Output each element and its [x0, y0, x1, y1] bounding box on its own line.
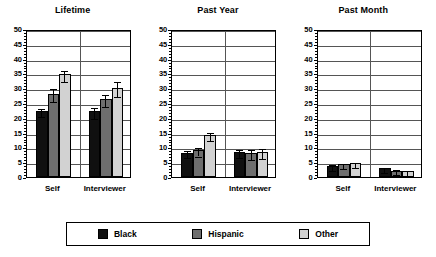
error-bar-cap-lower — [102, 107, 109, 108]
y-minor-tick — [315, 137, 317, 138]
y-minor-tick — [169, 80, 171, 81]
y-minor-tick — [169, 71, 171, 72]
error-bar-cap-lower — [329, 171, 336, 172]
legend-label: Hispanic — [208, 229, 243, 239]
error-bar-cap-lower — [195, 157, 202, 158]
y-tick-mark — [23, 163, 26, 164]
y-minor-tick — [169, 33, 171, 34]
y-minor-tick — [169, 95, 171, 96]
y-tick-mark — [168, 74, 171, 75]
error-bar-cap-upper — [236, 150, 243, 151]
panel-title: Past Month — [291, 5, 436, 15]
y-tick-label: 40 — [291, 56, 313, 64]
y-minor-tick — [169, 39, 171, 40]
plot-area — [171, 30, 276, 178]
y-tick-label: 5 — [0, 159, 22, 167]
y-minor-tick — [169, 128, 171, 129]
y-tick-mark — [23, 30, 26, 31]
error-bar-cap-lower — [38, 117, 45, 118]
error-bar — [198, 148, 199, 156]
y-minor-tick — [24, 166, 26, 167]
x-axis-label-interviewer: Interviewer — [84, 184, 126, 193]
y-minor-tick — [315, 166, 317, 167]
error-bar-cap-upper — [61, 71, 68, 72]
error-bar-cap-upper — [381, 168, 388, 169]
y-tick-label: 35 — [0, 71, 22, 79]
y-minor-tick — [169, 160, 171, 161]
y-tick-mark — [314, 60, 317, 61]
y-minor-tick — [24, 33, 26, 34]
y-tick-mark — [168, 134, 171, 135]
panel-title: Lifetime — [0, 5, 145, 15]
error-bar-cap-lower — [248, 160, 255, 161]
error-bar-cap-upper — [38, 109, 45, 110]
y-minor-tick — [169, 172, 171, 173]
y-minor-tick — [315, 83, 317, 84]
error-bar — [53, 89, 54, 101]
y-minor-tick — [315, 57, 317, 58]
y-minor-tick — [169, 63, 171, 64]
y-minor-tick — [169, 66, 171, 67]
legend-swatch-black — [98, 229, 108, 239]
y-minor-tick — [315, 63, 317, 64]
y-minor-tick — [169, 145, 171, 146]
y-tick-mark — [314, 163, 317, 164]
y-minor-tick — [315, 51, 317, 52]
y-tick-mark — [314, 45, 317, 46]
y-tick-label: 15 — [0, 130, 22, 138]
y-minor-tick — [24, 48, 26, 49]
y-minor-tick — [169, 137, 171, 138]
error-bar-cap-lower — [91, 119, 98, 120]
y-tick-mark — [314, 134, 317, 135]
y-minor-tick — [24, 110, 26, 111]
y-minor-tick — [315, 169, 317, 170]
y-minor-tick — [315, 160, 317, 161]
y-minor-tick — [24, 125, 26, 126]
y-tick-label: 20 — [0, 115, 22, 123]
error-bar — [262, 149, 263, 158]
y-minor-tick — [24, 57, 26, 58]
y-minor-tick — [24, 116, 26, 117]
y-tick-mark — [168, 89, 171, 90]
y-minor-tick — [315, 86, 317, 87]
bar-hispanic-self — [48, 94, 60, 177]
y-tick-mark — [168, 30, 171, 31]
y-minor-tick — [24, 83, 26, 84]
y-tick-mark — [23, 134, 26, 135]
bar-hispanic-interviewer — [100, 99, 112, 177]
y-minor-tick — [169, 116, 171, 117]
error-bar-cap-lower — [381, 173, 388, 174]
y-tick-label: 10 — [145, 145, 167, 153]
y-minor-tick — [169, 142, 171, 143]
y-tick-label: 20 — [291, 115, 313, 123]
y-minor-tick — [24, 137, 26, 138]
y-tick-label: 50 — [291, 26, 313, 34]
x-axis-label-interviewer: Interviewer — [374, 184, 416, 193]
y-minor-tick — [169, 122, 171, 123]
error-bar-cap-lower — [259, 159, 266, 160]
y-tick-label: 25 — [145, 100, 167, 108]
y-minor-tick — [169, 36, 171, 37]
y-tick-mark — [314, 178, 317, 179]
y-minor-tick — [169, 131, 171, 132]
y-tick-label: 50 — [145, 26, 167, 34]
y-tick-label: 40 — [0, 56, 22, 64]
legend-item-other: Other — [268, 229, 369, 239]
legend-swatch-other — [299, 229, 309, 239]
error-bar — [239, 150, 240, 158]
y-minor-tick — [169, 113, 171, 114]
error-bar — [117, 82, 118, 97]
y-minor-tick — [24, 131, 26, 132]
y-tick-mark — [314, 119, 317, 120]
error-bar-cap-upper — [50, 89, 57, 90]
bar-other-self — [59, 74, 71, 177]
y-tick-mark — [314, 30, 317, 31]
error-bar-cap-lower — [50, 102, 57, 103]
y-minor-tick — [315, 98, 317, 99]
y-minor-tick — [315, 107, 317, 108]
legend-item-hispanic: Hispanic — [168, 229, 269, 239]
error-bar — [251, 150, 252, 160]
y-minor-tick — [24, 95, 26, 96]
error-bar-cap-upper — [259, 149, 266, 150]
y-minor-tick — [315, 125, 317, 126]
